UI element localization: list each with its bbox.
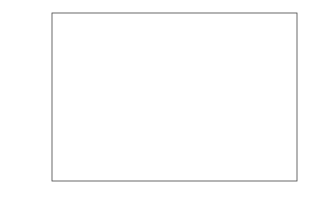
chart [0, 0, 309, 220]
plot-frame [52, 13, 297, 181]
